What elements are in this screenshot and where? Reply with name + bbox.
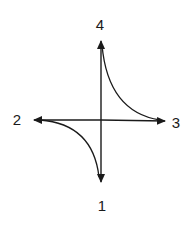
- node-label-4: 4: [96, 17, 104, 32]
- curve-4-to-3: [102, 45, 160, 120]
- arrow-to-3: [101, 120, 165, 121]
- curve-2-to-1: [40, 120, 99, 177]
- diagram-canvas: [0, 0, 189, 225]
- node-label-1: 1: [98, 198, 106, 213]
- node-label-2: 2: [13, 112, 21, 127]
- node-label-3: 3: [172, 115, 180, 130]
